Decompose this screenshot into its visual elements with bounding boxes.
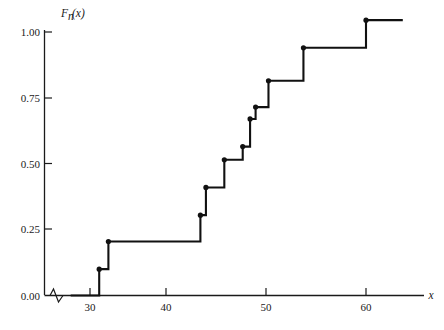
x-axis-title: x [427, 289, 434, 301]
ecdf-jump-dot [240, 144, 245, 149]
y-tick-label-1.00: 1.00 [21, 26, 41, 38]
plot-background [0, 0, 444, 330]
ecdf-jump-dot [363, 18, 368, 23]
x-tick-label-40: 40 [161, 301, 173, 313]
x-tick-label-50: 50 [261, 301, 273, 313]
ecdf-jump-dot [253, 105, 258, 110]
ecdf-plot-svg: 1.00 0.75 0.50 0.25 0.00 30 40 50 60 x F… [0, 0, 444, 330]
y-tick-label-0.50: 0.50 [21, 158, 41, 170]
ecdf-jump-dot [247, 116, 252, 121]
y-tick-label-0.00: 0.00 [21, 290, 41, 302]
x-tick-label-60: 60 [361, 301, 373, 313]
ecdf-jump-dot [198, 213, 203, 218]
x-tick-label-30: 30 [85, 301, 97, 313]
y-tick-label-0.75: 0.75 [21, 92, 41, 104]
ecdf-jump-dot [106, 239, 111, 244]
ecdf-jump-dot [301, 45, 306, 50]
ecdf-jump-dot [203, 185, 208, 190]
ecdf-chart: 1.00 0.75 0.50 0.25 0.00 30 40 50 60 x F… [0, 0, 444, 330]
y-tick-label-0.25: 0.25 [21, 223, 41, 235]
ecdf-jump-dot [266, 78, 271, 83]
ecdf-jump-dot [97, 267, 102, 272]
y-axis-title-argument: (x) [72, 7, 85, 20]
ecdf-jump-dot [222, 157, 227, 162]
